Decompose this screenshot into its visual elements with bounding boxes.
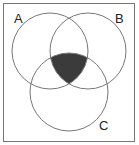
- label-c: C: [99, 118, 108, 133]
- label-b: B: [115, 11, 124, 26]
- label-a: A: [14, 11, 23, 26]
- venn-diagram: A B C: [0, 0, 139, 145]
